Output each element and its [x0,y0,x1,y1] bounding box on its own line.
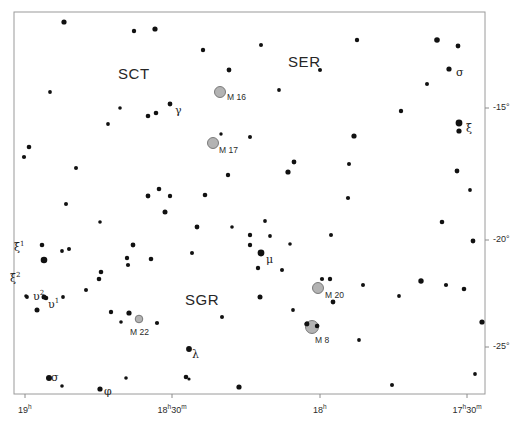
star-point [97,386,102,391]
star-point [473,372,477,376]
star-point [291,308,295,312]
star-point [226,173,230,177]
star-field [22,19,485,391]
star-point [132,29,136,33]
star-chart: SCTSERSGR M 16M 17M 20M 8M 22 γσξμξ1ξ2υ2… [0,0,521,424]
star-point [258,250,265,257]
star-point [42,295,47,300]
star-point [64,202,68,206]
star-point [157,187,162,192]
star-point [41,257,48,264]
star-point [154,111,159,116]
star-point [268,234,272,238]
star-point [248,243,252,247]
star-point [126,263,130,267]
star-point [186,346,192,352]
star-point [248,233,252,237]
star-point [195,225,200,230]
star-point [285,169,290,174]
star-point [152,26,157,31]
star-point [329,233,333,237]
star-point [425,82,429,86]
star-point [256,266,260,270]
star-point [230,225,234,229]
star-point [357,338,361,342]
axis-tick-marks [25,108,489,398]
messier-20-marker[interactable] [313,283,324,294]
star-point [227,68,232,73]
star-point [60,249,64,253]
star-point [434,37,440,43]
messier-22-marker[interactable] [135,315,143,323]
star-point [471,239,476,244]
chart-frame [14,12,485,394]
star-point [190,251,194,255]
star-point [355,38,359,42]
star-point [258,295,263,300]
star-point [203,193,208,198]
star-point [418,278,423,283]
star-point [187,377,190,380]
messier-16-marker[interactable] [215,87,226,98]
star-point [168,102,173,107]
star-point [146,114,151,119]
star-point [259,43,263,47]
sky-canvas [0,0,521,424]
star-point [399,109,403,113]
star-point [98,220,102,224]
star-point [119,320,123,324]
star-point [277,88,281,92]
star-point [456,44,461,49]
star-point [455,169,460,174]
star-point [328,277,332,281]
star-point [155,321,159,325]
star-point [248,135,252,139]
star-point [318,68,322,72]
star-point [446,66,451,71]
star-point [315,324,319,328]
star-point [440,220,445,225]
star-point [346,196,350,200]
star-point [288,242,292,246]
star-point [456,120,463,127]
star-point [61,295,65,299]
star-point [168,194,172,198]
star-point [99,270,104,275]
star-point [479,319,484,324]
star-point [347,162,351,166]
messier-17-marker[interactable] [208,138,219,149]
star-point [444,283,448,287]
star-point [351,133,356,138]
star-point [106,122,110,126]
star-point [84,288,88,292]
star-point [263,219,267,223]
star-point [292,160,297,165]
star-point [219,132,222,135]
star-point [61,19,66,24]
star-point [146,194,151,199]
star-point [201,48,205,52]
star-point [236,384,241,389]
star-point [48,90,52,94]
star-point [67,247,71,251]
star-point [25,295,29,299]
star-point [280,268,284,272]
star-point [456,128,461,133]
star-point [361,283,365,287]
star-point [126,310,131,315]
star-point [46,375,52,381]
star-point [149,257,154,262]
star-point [35,308,40,313]
star-point [124,376,128,380]
star-point [40,243,45,248]
star-point [60,384,64,388]
star-point [118,106,122,110]
star-point [109,310,113,314]
star-point [305,322,310,327]
star-point [390,383,394,387]
star-point [468,188,472,192]
star-point [131,243,136,248]
star-point [320,277,324,281]
star-point [27,145,32,150]
star-point [331,300,336,305]
